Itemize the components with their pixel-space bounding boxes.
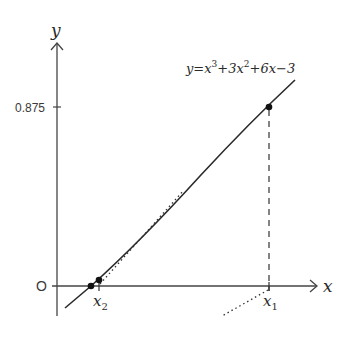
x-axis-label: x (323, 276, 333, 296)
point-x1 (266, 104, 273, 111)
x1-label: x1 (263, 292, 278, 312)
tangent-line-upper (100, 190, 184, 284)
tangent-line-lower (222, 290, 268, 316)
y-tick-label: 0.875 (15, 101, 45, 115)
x2-label: x2 (93, 292, 108, 312)
y-axis-label: y (50, 20, 61, 40)
point-root (88, 283, 95, 290)
origin-label: O (36, 278, 47, 294)
function-curve (65, 80, 295, 308)
equation-label: y=x3+3x2+6x−3 (185, 59, 295, 76)
newton-method-graph: y x O 0.875 x1 x2 y=x3+3x2+6x−3 (0, 0, 350, 339)
point-x2 (96, 277, 103, 284)
